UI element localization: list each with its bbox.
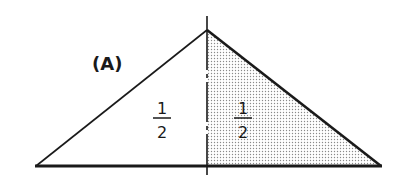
triangle-diagram: (A) 1 2 1 2 bbox=[0, 0, 407, 179]
diagram-label: (A) bbox=[92, 53, 122, 74]
left-edge bbox=[36, 30, 207, 166]
right-numerator: 1 bbox=[238, 99, 248, 118]
left-denominator: 2 bbox=[157, 123, 167, 142]
right-denominator: 2 bbox=[238, 123, 248, 142]
left-numerator: 1 bbox=[157, 99, 167, 118]
